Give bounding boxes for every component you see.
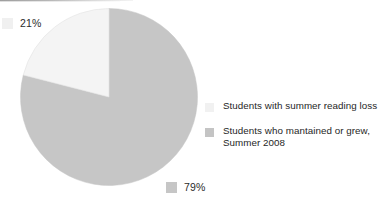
scan-edge-artifact-secondary xyxy=(0,1,120,2)
legend-item-summer-reading-loss[interactable]: Students with summer reading loss xyxy=(205,100,380,112)
data-label-value: 21% xyxy=(20,18,41,29)
pie-chart-figure: 21% 79% Students with summer reading los… xyxy=(0,0,382,204)
data-label-21-percent: 21% xyxy=(2,18,41,29)
data-label-swatch-light xyxy=(2,18,13,29)
chart-legend: Students with summer reading loss Studen… xyxy=(205,100,380,148)
legend-item-label: Students who mantained or grew, Summer 2… xyxy=(223,125,380,148)
legend-swatch-light xyxy=(205,103,214,112)
legend-item-label: Students with summer reading loss xyxy=(223,100,377,112)
data-label-79-percent: 79% xyxy=(166,182,205,193)
legend-item-maintained-or-grew[interactable]: Students who mantained or grew, Summer 2… xyxy=(205,125,380,148)
pie-graphic xyxy=(20,8,198,186)
data-label-value: 79% xyxy=(184,182,205,193)
legend-swatch-gray xyxy=(205,128,214,137)
data-label-swatch-gray xyxy=(166,182,177,193)
pie-svg xyxy=(20,8,198,186)
